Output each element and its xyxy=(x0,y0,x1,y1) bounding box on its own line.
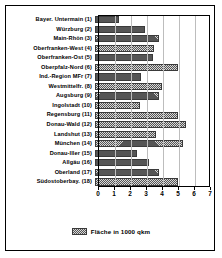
category-label: Oberpfalz-Nord (6) xyxy=(12,65,95,71)
bar xyxy=(95,102,140,109)
x-axis-tick-label: 0 xyxy=(96,191,100,197)
category-label: Regensburg (11) xyxy=(12,112,95,118)
bar xyxy=(95,112,178,119)
bar xyxy=(95,16,119,23)
bar-cell xyxy=(95,63,210,73)
legend-swatch-flaeche xyxy=(72,228,87,235)
bar-row: Würzburg (2) xyxy=(12,25,210,35)
x-axis-tick-label: 3 xyxy=(144,191,148,197)
bar-row: Landshut (13) xyxy=(12,130,210,140)
chart-legend: Fläche in 1000 qkm xyxy=(12,228,210,235)
bar xyxy=(95,54,153,61)
bar xyxy=(95,121,186,128)
bar-row: Oberfranken-West (4) xyxy=(12,44,210,54)
category-label: Oberfranken-West (4) xyxy=(12,46,95,52)
bar-cell xyxy=(95,101,210,111)
bar xyxy=(95,92,159,99)
bar-row: Ind.-Region MFr (7) xyxy=(12,72,210,82)
bar-cell xyxy=(95,53,210,63)
bar-row: Augsburg (9) xyxy=(12,91,210,101)
chart-frame: Bayer. Untermain (1)Würzburg (2)Main-Rhö… xyxy=(5,5,215,251)
x-axis-tick-label: 4 xyxy=(160,191,164,197)
category-label: Ind.-Region MFr (7) xyxy=(12,74,95,80)
bar-row: Ingolstadt (10) xyxy=(12,101,210,111)
bar xyxy=(95,178,178,185)
bar-cell xyxy=(95,25,210,35)
bar-row: Main-Rhön (3) xyxy=(12,34,210,44)
legend-label-flaeche: Fläche in 1000 qkm xyxy=(91,228,150,235)
bar-rows: Bayer. Untermain (1)Würzburg (2)Main-Rhö… xyxy=(12,15,210,187)
x-axis-tick-label: 7 xyxy=(208,191,212,197)
bar-cell xyxy=(95,15,210,25)
category-label: Main-Rhön (3) xyxy=(12,36,95,42)
bar-cell xyxy=(95,177,210,187)
bar-row: Allgäu (16) xyxy=(12,158,210,168)
chart-plot-container: Bayer. Untermain (1)Würzburg (2)Main-Rhö… xyxy=(12,15,210,215)
bar-cell xyxy=(95,34,210,44)
bar-row: Donau-Iller (15) xyxy=(12,149,210,159)
bar xyxy=(95,131,156,138)
bar-cell xyxy=(95,139,210,149)
bar xyxy=(95,64,178,71)
bar-cell xyxy=(95,91,210,101)
bar xyxy=(95,140,183,147)
bar-cell xyxy=(95,130,210,140)
bar-cell xyxy=(95,72,210,82)
category-label: Würzburg (2) xyxy=(12,27,95,33)
bar-row: Oberland (17) xyxy=(12,168,210,178)
category-label: Landshut (13) xyxy=(12,132,95,138)
x-axis-tick-label: 1 xyxy=(112,191,116,197)
bar-cell xyxy=(95,44,210,54)
bar-row: Regensburg (11) xyxy=(12,110,210,120)
x-axis-tick-label: 5 xyxy=(176,191,180,197)
bar-row: Bayer. Untermain (1) xyxy=(12,15,210,25)
category-label: Oberland (17) xyxy=(12,170,95,176)
bar-cell xyxy=(95,158,210,168)
bar-cell xyxy=(95,110,210,120)
bar-row: Südostoberbay. (18) xyxy=(12,177,210,187)
category-label: Donau-Wald (12) xyxy=(12,122,95,128)
category-label: Allgäu (16) xyxy=(12,160,95,166)
category-label: Westmittelfr. (8) xyxy=(12,84,95,90)
bar xyxy=(95,159,149,166)
bar-cell xyxy=(95,120,210,130)
x-axis-tick-label: 6 xyxy=(192,191,196,197)
bar-cell xyxy=(95,168,210,178)
x-axis-tick-label: 2 xyxy=(128,191,132,197)
bar xyxy=(95,169,159,176)
bar-row: Oberpfalz-Nord (6) xyxy=(12,63,210,73)
bar xyxy=(95,35,159,42)
category-label: Augsburg (9) xyxy=(12,93,95,99)
bar-row: Donau-Wald (12) xyxy=(12,120,210,130)
bar xyxy=(95,26,145,33)
bar-cell xyxy=(95,149,210,159)
bar-row: München (14) xyxy=(12,139,210,149)
x-axis: 01234567 xyxy=(98,187,210,201)
bar-cell xyxy=(95,82,210,92)
bar xyxy=(95,150,137,157)
category-label: Oberfranken-Ost (5) xyxy=(12,55,95,61)
bar xyxy=(95,45,154,52)
bar-row: Westmittelfr. (8) xyxy=(12,82,210,92)
bar xyxy=(95,83,162,90)
category-label: Donau-Iller (15) xyxy=(12,151,95,157)
category-label: Ingolstadt (10) xyxy=(12,103,95,109)
category-label: Südostoberbay. (18) xyxy=(12,179,95,185)
bar xyxy=(95,73,141,80)
bar-row: Oberfranken-Ost (5) xyxy=(12,53,210,63)
category-label: Bayer. Untermain (1) xyxy=(12,17,95,23)
category-label: München (14) xyxy=(12,141,95,147)
